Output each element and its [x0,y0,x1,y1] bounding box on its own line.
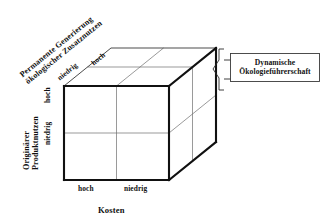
x-axis-title: Kosten [98,206,125,216]
callout-line2: Ökologieführerschaft [231,67,319,76]
callout-line1: Dynamische [231,58,319,67]
x-tick-niedrig: niedrig [124,185,147,193]
y-tick-niedrig: niedrig [44,122,52,145]
y-axis-title: Originärer Produktnutzen [22,116,40,170]
callout-label: Dynamische Ökologieführerschaft [231,58,319,77]
y-tick-hoch: hoch [44,87,52,103]
y-axis-title-line2: Produktnutzen [31,116,40,170]
x-tick-hoch: hoch [78,185,94,193]
cube-illustration [0,0,326,223]
y-axis-title-line1: Originärer [22,116,31,170]
diagram-canvas: hoch niedrig Kosten hoch niedrig Originä… [0,0,326,223]
